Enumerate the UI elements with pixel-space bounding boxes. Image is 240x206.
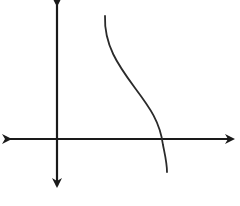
- function-curve: [105, 16, 167, 172]
- function-graph: [0, 0, 240, 206]
